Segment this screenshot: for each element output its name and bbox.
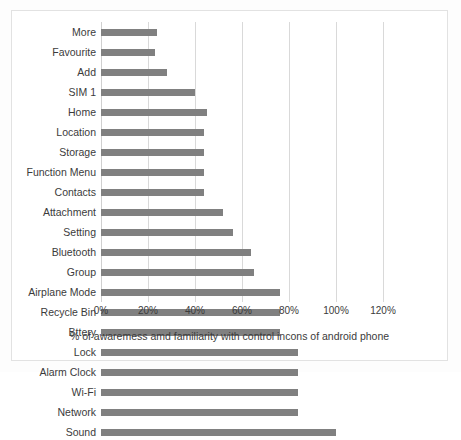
category-label: Lock bbox=[8, 342, 96, 362]
category-label: Setting bbox=[8, 222, 96, 242]
bar bbox=[101, 269, 254, 276]
tick-label: 40% bbox=[185, 305, 205, 316]
axis-title: % of awaremess amd familiarity with cont… bbox=[11, 330, 448, 342]
value-axis-tick-labels: 0%20%40%60%80%100%120% bbox=[101, 305, 383, 321]
category-label: SIM 1 bbox=[8, 82, 96, 102]
category-label: Alarm Clock bbox=[8, 362, 96, 382]
category-label: Airplane Mode bbox=[8, 282, 96, 302]
tick-label: 120% bbox=[370, 305, 396, 316]
bar bbox=[101, 149, 204, 156]
bar-row bbox=[101, 282, 383, 302]
bar-row bbox=[101, 242, 383, 262]
bar bbox=[101, 289, 280, 296]
category-label: Wi-Fi bbox=[8, 382, 96, 402]
category-label: Group bbox=[8, 262, 96, 282]
bar-row bbox=[101, 362, 383, 382]
bar-row bbox=[101, 202, 383, 222]
bar bbox=[101, 249, 251, 256]
tick-label: 20% bbox=[138, 305, 158, 316]
bar-row bbox=[101, 402, 383, 422]
category-label: Attachment bbox=[8, 202, 96, 222]
bar-row bbox=[101, 122, 383, 142]
bar bbox=[101, 109, 207, 116]
bar-row bbox=[101, 262, 383, 282]
category-label: Location bbox=[8, 122, 96, 142]
bar bbox=[101, 209, 223, 216]
bar bbox=[101, 49, 155, 56]
bar bbox=[101, 389, 298, 396]
category-label: Contacts bbox=[8, 182, 96, 202]
bar bbox=[101, 409, 298, 416]
category-label: Home bbox=[8, 102, 96, 122]
category-label: Storage bbox=[8, 142, 96, 162]
tick-label: 60% bbox=[232, 305, 252, 316]
bar-row bbox=[101, 42, 383, 62]
tick-label: 0% bbox=[94, 305, 108, 316]
bar bbox=[101, 69, 167, 76]
bar-row bbox=[101, 102, 383, 122]
bars-layer bbox=[101, 22, 383, 302]
plot-area bbox=[101, 22, 383, 302]
category-label: More bbox=[8, 22, 96, 42]
bar-row bbox=[101, 182, 383, 202]
bar-row bbox=[101, 162, 383, 182]
category-label: Network bbox=[8, 402, 96, 422]
category-label: Sound bbox=[8, 422, 96, 440]
bar bbox=[101, 429, 336, 436]
bar bbox=[101, 369, 298, 376]
bar bbox=[101, 89, 195, 96]
category-axis-labels: More Favourite Add SIM 1 Home Location S… bbox=[8, 22, 96, 302]
bar-row bbox=[101, 342, 383, 362]
bar bbox=[101, 169, 204, 176]
bar bbox=[101, 189, 204, 196]
bar bbox=[101, 29, 157, 36]
tick-label: 100% bbox=[323, 305, 349, 316]
gridline bbox=[383, 22, 384, 302]
bar-row bbox=[101, 142, 383, 162]
category-label: Function Menu bbox=[8, 162, 96, 182]
bar bbox=[101, 129, 204, 136]
bar-row bbox=[101, 22, 383, 42]
bar-row bbox=[101, 62, 383, 82]
tick-label: 80% bbox=[279, 305, 299, 316]
bar-row bbox=[101, 222, 383, 242]
bar-row bbox=[101, 422, 383, 440]
category-label: Favourite bbox=[8, 42, 96, 62]
bar-row bbox=[101, 382, 383, 402]
bar bbox=[101, 229, 233, 236]
category-label: Add bbox=[8, 62, 96, 82]
bar-row bbox=[101, 82, 383, 102]
bar bbox=[101, 349, 298, 356]
category-label: Bluetooth bbox=[8, 242, 96, 262]
category-label: Recycle Bin bbox=[8, 302, 96, 322]
